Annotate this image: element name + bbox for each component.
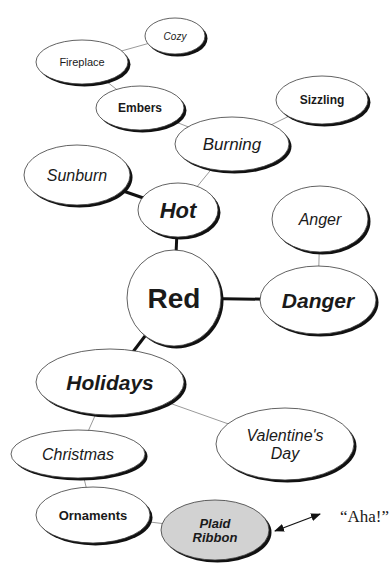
node-label: Red <box>148 283 201 314</box>
double-arrow-icon <box>275 514 320 531</box>
node-ornaments: Ornaments <box>36 487 153 546</box>
nodes-layer: CozyFireplaceEmbersSizzlingBurningSunbur… <box>11 18 379 563</box>
node-hot: Hot <box>138 183 221 240</box>
node-label: Embers <box>118 101 162 115</box>
node-label: Sizzling <box>300 93 345 107</box>
concept-map-diagram: CozyFireplaceEmbersSizzlingBurningSunbur… <box>0 0 391 580</box>
node-holidays: Holidays <box>36 349 187 418</box>
node-christmas: Christmas <box>11 430 148 481</box>
node-label: Ornaments <box>59 508 128 523</box>
node-label: Holidays <box>66 371 154 394</box>
node-valentines: Valentine'sDay <box>216 408 357 483</box>
node-label: Fireplace <box>59 56 104 68</box>
node-label: Cozy <box>164 31 188 42</box>
node-label: Burning <box>203 135 262 154</box>
node-label: Danger <box>282 289 356 312</box>
node-danger: Danger <box>260 266 379 337</box>
node-fireplace: Fireplace <box>36 40 131 87</box>
node-sizzling: Sizzling <box>276 76 371 127</box>
aha-annotation: “Aha!” <box>340 507 389 526</box>
node-sunburn: Sunburn <box>24 145 133 208</box>
node-cozy: Cozy <box>145 18 208 57</box>
node-label: Christmas <box>42 446 114 463</box>
node-label: Sunburn <box>47 167 108 184</box>
node-red: Red <box>127 250 224 349</box>
node-embers: Embers <box>96 86 187 133</box>
annotation-layer: “Aha!” <box>275 507 389 532</box>
node-label: Anger <box>298 211 342 228</box>
node-label: Hot <box>160 198 198 223</box>
node-anger: Anger <box>272 186 371 255</box>
node-plaid: PlaidRibbon <box>161 500 272 563</box>
node-burning: Burning <box>175 117 292 174</box>
